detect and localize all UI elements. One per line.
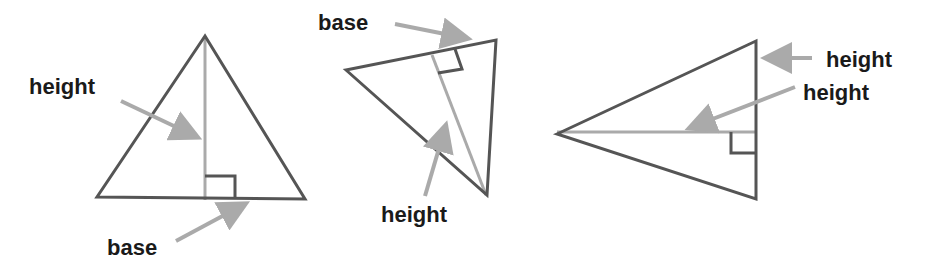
triangle-1: height base xyxy=(29,36,305,260)
height-side-label: height xyxy=(826,47,893,72)
height-label: height xyxy=(29,74,96,99)
height-inner-label: height xyxy=(803,80,870,105)
base-label: base xyxy=(107,235,157,260)
triangle-3: height height xyxy=(557,41,893,199)
right-angle-marker xyxy=(731,132,757,153)
triangle-outline xyxy=(97,36,305,199)
base-arrow xyxy=(176,205,243,241)
height-inner-arrow xyxy=(692,87,795,127)
triangle-outline xyxy=(557,41,756,199)
base-arrow xyxy=(395,24,465,38)
right-angle-marker xyxy=(205,176,235,198)
height-label: height xyxy=(381,202,448,227)
base-label: base xyxy=(318,10,368,35)
triangle-2: base height xyxy=(318,10,496,227)
height-arrow xyxy=(425,128,445,196)
right-angle-marker xyxy=(438,49,462,73)
triangle-base-height-diagram: height base base height height height xyxy=(0,0,927,264)
height-line xyxy=(432,55,486,195)
triangle-outline xyxy=(346,40,496,195)
